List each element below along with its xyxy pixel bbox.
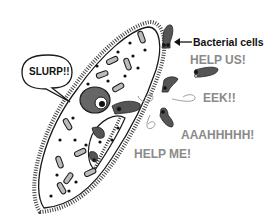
aaahhhhh-label: AAAHHHHH! — [181, 128, 254, 142]
bacterial-cells-label: Bacterial cells — [193, 36, 264, 48]
eek-label: EEK!! — [203, 91, 236, 105]
help-me-label: HELP ME! — [134, 147, 191, 161]
slurp-label: SLURP!! — [29, 66, 70, 77]
bacterial-cell — [162, 25, 173, 48]
bacterial-cell — [194, 67, 218, 77]
bacterial-cell — [162, 77, 178, 92]
mouth-vacuole — [80, 87, 110, 113]
bacterial-cell — [160, 108, 173, 127]
arrow-icon — [174, 38, 192, 46]
help-us-label: HELP US! — [190, 53, 246, 67]
speech-bubble — [22, 55, 72, 102]
illustration — [0, 0, 274, 224]
paramecium-cartoon: SLURP!! Bacterial cells HELP US! EEK!! A… — [0, 0, 274, 224]
